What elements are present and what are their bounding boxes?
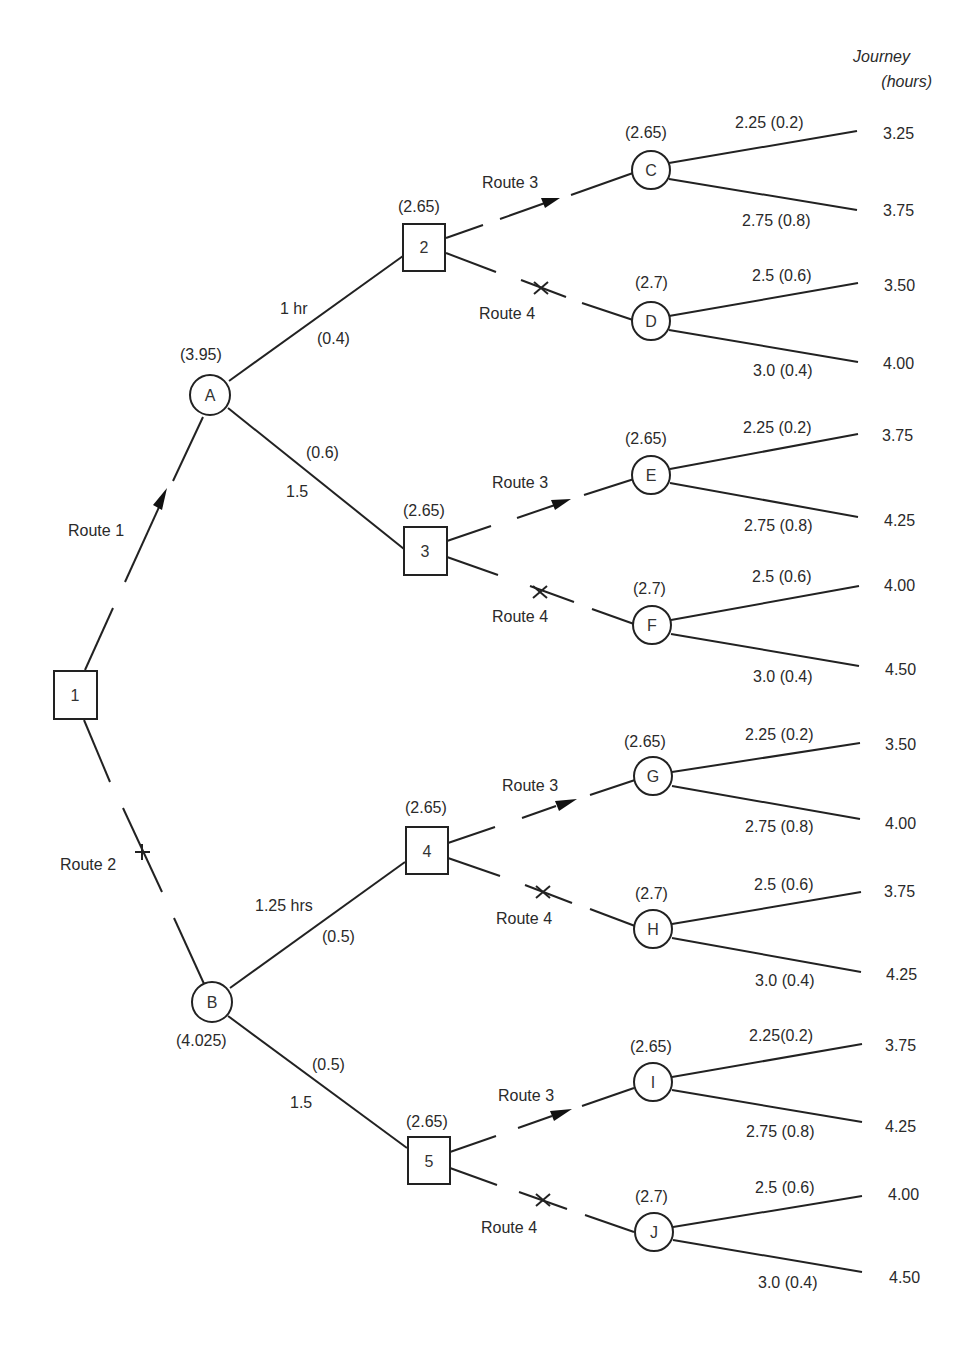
node-b-value: (4.025) — [176, 1032, 227, 1049]
outcome-d-upper-label: 2.5 (0.6) — [752, 267, 812, 284]
node-4-value: (2.65) — [405, 799, 447, 816]
outcome-i-upper-label: 2.25(0.2) — [749, 1027, 813, 1044]
outcome-h-lower-label: 3.0 (0.4) — [755, 972, 815, 989]
svg-text:5: 5 — [425, 1153, 434, 1170]
decision-node-2: 2 — [403, 224, 445, 271]
journey-header: Journey — [852, 48, 911, 65]
route-4-label: Route 4 — [481, 1219, 537, 1236]
journey-c-lower: 3.75 — [883, 202, 914, 219]
outcome-j-lower-label: 3.0 (0.4) — [758, 1274, 818, 1291]
arrow-icon — [541, 198, 560, 208]
node-c-value: (2.65) — [625, 124, 667, 141]
node-h-value: (2.7) — [635, 885, 668, 902]
journey-c-upper: 3.25 — [883, 125, 914, 142]
outcome-e-lower — [670, 483, 858, 517]
arrow-icon — [550, 1109, 572, 1121]
chance-node-g: G — [634, 757, 672, 795]
svg-text:H: H — [647, 921, 659, 938]
outcome-j-upper — [673, 1196, 862, 1227]
outcome-c-lower — [669, 179, 857, 210]
outcome-g-upper — [672, 743, 860, 772]
outcome-d-upper — [669, 283, 858, 316]
svg-text:B: B — [207, 994, 218, 1011]
outcome-e-upper — [670, 434, 858, 469]
svg-text:I: I — [651, 1074, 655, 1091]
chance-node-c: C — [632, 151, 670, 189]
node-e-value: (2.65) — [625, 430, 667, 447]
journey-h-lower: 4.25 — [886, 966, 917, 983]
outcome-d-lower-label: 3.0 (0.4) — [753, 362, 813, 379]
chance-node-j: J — [635, 1213, 673, 1251]
route-4-label: Route 4 — [492, 608, 548, 625]
svg-text:J: J — [650, 1224, 658, 1241]
outcome-c-lower-label: 2.75 (0.8) — [742, 212, 810, 229]
journey-e-upper: 3.75 — [882, 427, 913, 444]
node-a-value: (3.95) — [180, 346, 222, 363]
outcome-f-lower — [671, 634, 859, 666]
route-4-label: Route 4 — [496, 910, 552, 927]
route-2-branch — [84, 720, 205, 986]
outcome-e-lower-label: 2.75 (0.8) — [744, 517, 812, 534]
outcome-j-upper-label: 2.5 (0.6) — [755, 1179, 815, 1196]
route-4-branch-from-2 — [446, 253, 633, 320]
svg-text:4: 4 — [423, 843, 432, 860]
branch-a-to-2 — [229, 256, 403, 381]
route-2-label: Route 2 — [60, 856, 116, 873]
decision-node-1: 1 — [54, 671, 97, 719]
outcome-d-lower — [669, 330, 858, 362]
journey-g-lower: 4.00 — [885, 815, 916, 832]
branch-b5-time: 1.5 — [290, 1094, 312, 1111]
svg-text:A: A — [205, 387, 216, 404]
route-3-label: Route 3 — [498, 1087, 554, 1104]
branch-b-to-4 — [230, 862, 405, 988]
outcome-c-upper-label: 2.25 (0.2) — [735, 114, 803, 131]
journey-f-upper: 4.00 — [884, 577, 915, 594]
node-5-value: (2.65) — [406, 1113, 448, 1130]
chance-node-f: F — [633, 606, 671, 644]
branch-a3-time: 1.5 — [286, 483, 308, 500]
arrow-icon — [555, 799, 577, 811]
chance-node-a: A — [190, 375, 230, 415]
branch-b-to-5 — [228, 1016, 407, 1148]
svg-text:D: D — [645, 313, 657, 330]
svg-text:C: C — [645, 162, 657, 179]
svg-text:G: G — [647, 768, 659, 785]
branch-a2-prob: (0.4) — [317, 330, 350, 347]
journey-d-upper: 3.50 — [884, 277, 915, 294]
branch-a3-prob: (0.6) — [306, 444, 339, 461]
journey-i-upper: 3.75 — [885, 1037, 916, 1054]
node-2-value: (2.65) — [398, 198, 440, 215]
outcome-h-upper-label: 2.5 (0.6) — [754, 876, 814, 893]
outcome-f-upper — [671, 586, 859, 620]
chance-node-e: E — [632, 456, 670, 494]
outcome-h-lower — [672, 938, 861, 972]
chance-node-h: H — [634, 910, 672, 948]
route-1-branch — [85, 417, 203, 670]
route-4-label: Route 4 — [479, 305, 535, 322]
chance-node-i: I — [634, 1063, 672, 1101]
decision-node-4: 4 — [406, 827, 448, 874]
outcome-i-upper — [672, 1044, 862, 1077]
branch-b4-time: 1.25 hrs — [255, 897, 313, 914]
hours-header: (hours) — [881, 73, 932, 90]
outcome-i-lower-label: 2.75 (0.8) — [746, 1123, 814, 1140]
arrow-icon — [153, 488, 167, 510]
decision-node-3: 3 — [404, 527, 447, 575]
journey-g-upper: 3.50 — [885, 736, 916, 753]
route-1-label: Route 1 — [68, 522, 124, 539]
node-j-value: (2.7) — [635, 1188, 668, 1205]
route-3-branch-from-2 — [446, 173, 633, 238]
journey-d-lower: 4.00 — [883, 355, 914, 372]
outcome-c-upper — [669, 131, 857, 163]
journey-j-upper: 4.00 — [888, 1186, 919, 1203]
outcome-i-lower — [672, 1090, 862, 1122]
journey-h-upper: 3.75 — [884, 883, 915, 900]
outcome-g-lower — [672, 786, 860, 819]
chance-node-d: D — [632, 302, 670, 340]
branch-b4-prob: (0.5) — [322, 928, 355, 945]
svg-text:F: F — [647, 617, 657, 634]
outcome-g-upper-label: 2.25 (0.2) — [745, 726, 813, 743]
svg-text:E: E — [646, 467, 657, 484]
node-d-value: (2.7) — [635, 274, 668, 291]
outcome-h-upper — [672, 892, 861, 924]
